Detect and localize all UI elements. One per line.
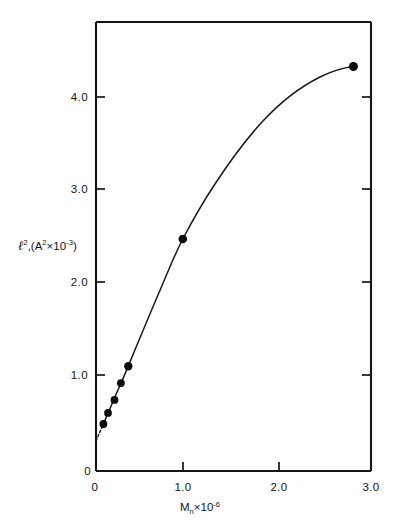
x-axis-label: Mn×10-6 — [180, 500, 220, 516]
data-point — [349, 62, 358, 71]
y-tick-label-0: 0 — [84, 465, 91, 477]
data-point — [124, 362, 132, 370]
y-axis-ticks — [96, 97, 105, 375]
y-axis-ticks-right — [362, 97, 371, 375]
plot-frame — [96, 22, 371, 471]
x-tick-label-1: 1.0 — [174, 481, 191, 493]
x-axis-label-exp: -6 — [213, 500, 220, 509]
x-axis-label-times: ×10 — [194, 501, 214, 513]
chart-svg: 4.0 3.0 2.0 1.0 0 0 1.0 2.0 3.0 Mn×10-6 … — [0, 0, 396, 526]
data-point — [104, 409, 112, 417]
svg-text:ℓ2,(A2×10-3): ℓ2,(A2×10-3) — [18, 238, 77, 253]
y-tick-label-3: 3.0 — [71, 183, 88, 195]
fitted-curve — [103, 67, 353, 425]
y-axis-label-times: ×10 — [47, 240, 67, 252]
x-tick-label-2: 2.0 — [270, 481, 287, 493]
data-points — [100, 62, 358, 428]
y-tick-label-1: 1.0 — [71, 369, 88, 381]
y-axis-label-open: ,(A — [28, 240, 43, 252]
data-point — [111, 396, 119, 404]
y-tick-label-2: 2.0 — [71, 276, 88, 288]
data-point — [179, 235, 188, 244]
y-axis-label-close: ) — [73, 240, 77, 252]
y-axis-label: ℓ2,(A2×10-3) — [18, 238, 77, 253]
x-axis-label-base: M — [180, 501, 190, 513]
data-point — [100, 420, 108, 428]
figure-panel: 4.0 3.0 2.0 1.0 0 0 1.0 2.0 3.0 Mn×10-6 … — [0, 0, 396, 526]
x-axis-ticks — [183, 462, 279, 471]
data-point — [117, 379, 125, 387]
y-tick-label-4: 4.0 — [71, 91, 88, 103]
svg-text:Mn×10-6: Mn×10-6 — [180, 500, 220, 516]
x-tick-label-3: 3.0 — [362, 481, 379, 493]
x-tick-label-0: 0 — [92, 481, 99, 493]
y-axis-label-scale-exp: -3 — [66, 238, 73, 247]
